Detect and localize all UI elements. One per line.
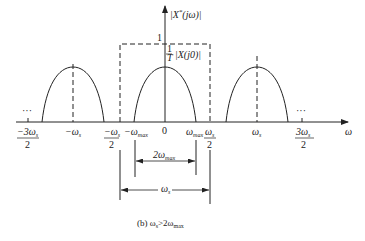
svg-text:3ωs: 3ωs xyxy=(295,126,311,138)
svg-text:−3ωs: −3ωs xyxy=(17,126,39,138)
center-frac-den: T xyxy=(167,52,174,63)
x-tick-ws: ωs xyxy=(252,126,262,138)
svg-text:−ωs: −ωs xyxy=(104,126,121,138)
y-tick-one: 1 xyxy=(157,32,162,43)
ellipsis-left: ··· xyxy=(22,105,32,116)
dim-2wmax-label: 2ωmax xyxy=(153,149,175,161)
ellipsis-right: ··· xyxy=(296,105,306,116)
y-axis-label: |X*(jω)| xyxy=(170,8,202,21)
svg-text:2: 2 xyxy=(25,139,30,150)
svg-text:−ωs: −ωs xyxy=(65,126,82,138)
x-tick-neg-ws-over-2: −ωs 2 xyxy=(104,126,121,150)
x-tick-ws-over-2: ωs 2 xyxy=(204,126,216,150)
x-tick-3ws-over-2: 3ωs 2 xyxy=(295,126,314,150)
svg-text:2: 2 xyxy=(301,139,306,150)
sampling-spectrum-diagram: ··· ··· |X*(jω)| 1 1 T |X(j0)| −3ωs 2 −ω… xyxy=(0,0,365,241)
svg-text:ωs: ωs xyxy=(252,126,262,138)
svg-text:0: 0 xyxy=(162,125,167,136)
x-tick-neg-3ws-over-2: −3ωs 2 xyxy=(17,126,39,150)
x-tick-wmax: ωmax xyxy=(186,126,203,138)
dim-ws-label: ωs xyxy=(161,183,171,195)
figure-caption: (b) ωs>2ωmax xyxy=(137,218,184,229)
center-magnitude-label: |X(j0)| xyxy=(175,49,201,61)
x-tick-neg-ws: −ωs xyxy=(65,126,82,138)
svg-text:2: 2 xyxy=(109,139,114,150)
svg-text:ωmax: ωmax xyxy=(186,126,203,138)
svg-text:ωs: ωs xyxy=(205,126,215,138)
x-tick-zero: 0 xyxy=(162,125,167,136)
svg-text:2: 2 xyxy=(207,139,212,150)
svg-text:−ωmax: −ωmax xyxy=(124,126,148,138)
x-axis-label: ω xyxy=(345,126,352,137)
x-tick-neg-wmax: −ωmax xyxy=(124,126,148,138)
